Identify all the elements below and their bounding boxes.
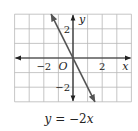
caption-eq: = −2 [51, 112, 86, 126]
x-tick-label: −2 [36, 61, 51, 72]
caption-x: x [87, 112, 94, 126]
y-tick-label: 2 [64, 24, 70, 35]
equation-caption: y = −2x [44, 112, 94, 126]
x-tick-label: 2 [99, 61, 105, 72]
y-tick-label: −2 [55, 82, 70, 93]
graph: −2 2 2 −2 x y O y = −2x [0, 0, 138, 131]
origin-label: O [58, 60, 67, 73]
y-axis-label: y [78, 13, 86, 26]
x-axis-label: x [122, 60, 129, 73]
